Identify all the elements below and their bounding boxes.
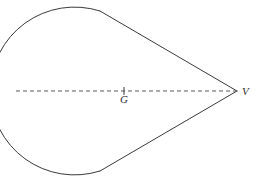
centroid-label-g: G <box>120 93 128 105</box>
teardrop-diagram: G V <box>0 0 260 183</box>
upper-tangent-line <box>100 11 237 91</box>
figure-canvas: G V <box>0 0 260 183</box>
vertex-label-v: V <box>242 85 250 97</box>
circular-arc <box>0 7 100 175</box>
